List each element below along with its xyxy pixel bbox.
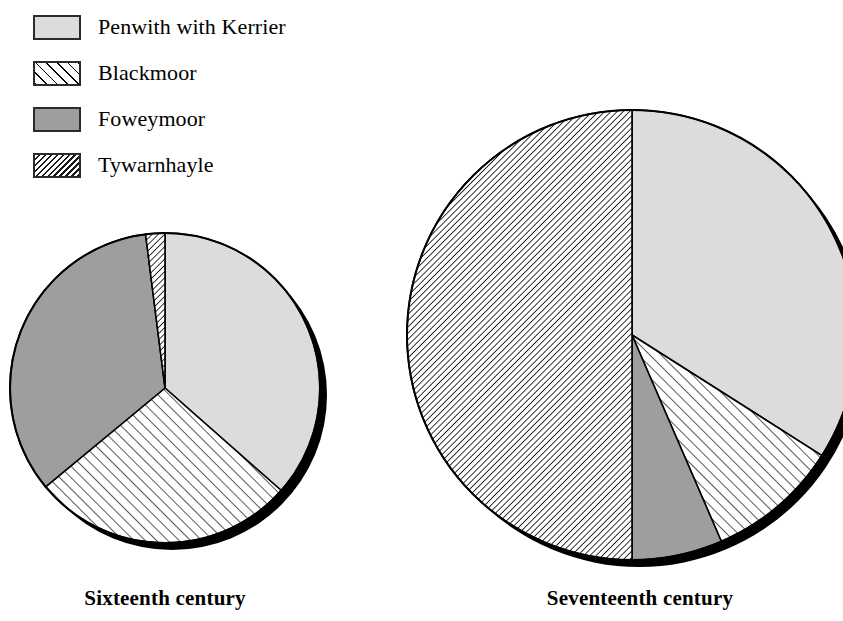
- pie-slices-group: [10, 110, 843, 567]
- pie-caption-sixteenth-century: Sixteenth century: [40, 586, 290, 611]
- pie-slice[interactable]: [407, 110, 632, 560]
- pie-charts-canvas: [0, 0, 843, 621]
- pie-chart-figure: Penwith with Kerrier Blackmoor Foweymoor…: [0, 0, 843, 621]
- pie-caption-seventeenth-century: Seventeenth century: [500, 586, 780, 611]
